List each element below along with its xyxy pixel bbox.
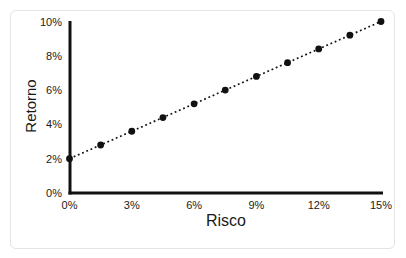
data-point — [128, 128, 135, 135]
data-point — [222, 87, 229, 94]
data-point — [253, 73, 260, 80]
data-point — [160, 114, 167, 121]
x-tick-label: 12% — [308, 199, 330, 211]
x-axis-title: Risco — [206, 212, 246, 230]
x-tick-label: 6% — [186, 199, 202, 211]
x-tick-label: 9% — [248, 199, 264, 211]
y-tick-label: 8% — [46, 50, 62, 62]
y-tick-label: 2% — [46, 153, 62, 165]
y-tick-label: 6% — [46, 84, 62, 96]
x-tick-label: 0% — [62, 199, 78, 211]
data-point — [315, 46, 322, 53]
y-tick-label: 4% — [46, 118, 62, 130]
y-tick-label: 10% — [40, 16, 62, 28]
data-point — [191, 100, 198, 107]
data-point — [66, 155, 73, 162]
risk-return-scatter-chart: 0%2%4%6%8%10%0%3%6%9%12%15% — [0, 0, 406, 258]
data-point — [346, 32, 353, 39]
data-point — [284, 59, 291, 66]
x-tick-label: 3% — [124, 199, 140, 211]
data-point — [378, 18, 385, 25]
y-tick-label: 0% — [46, 187, 62, 199]
data-point — [97, 142, 104, 149]
x-tick-label: 15% — [370, 199, 392, 211]
y-axis-title: Retorno — [22, 79, 39, 132]
